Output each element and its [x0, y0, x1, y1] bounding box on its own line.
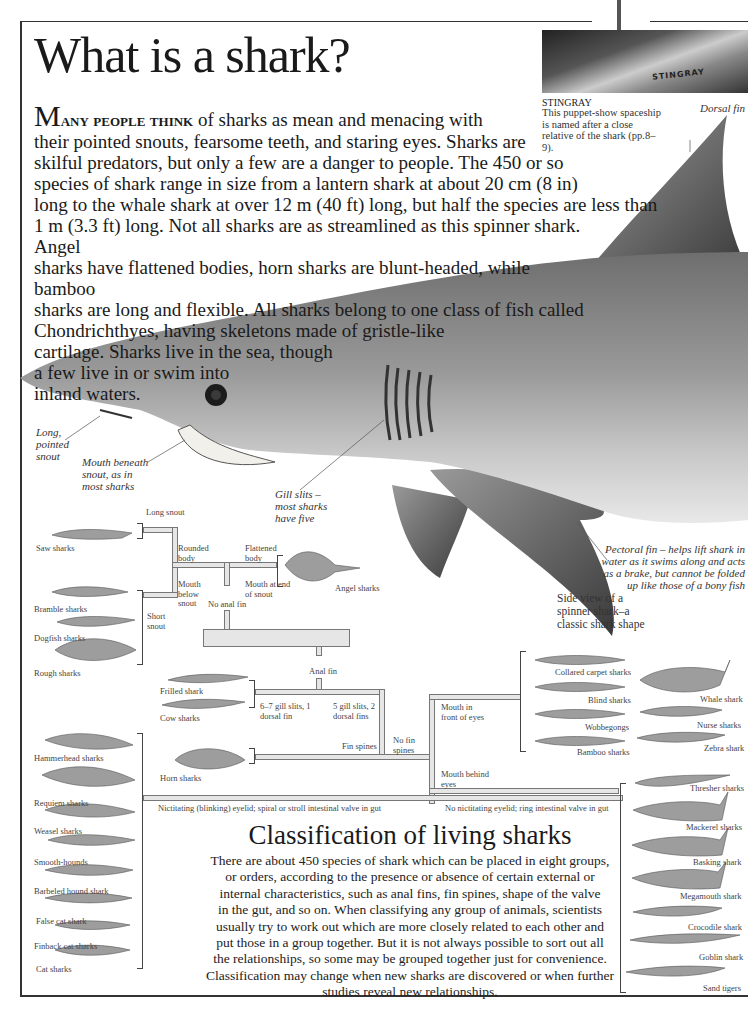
classification-line: put those in a group together. But it is… — [175, 935, 645, 951]
species-angel-sharks: Angel sharks — [335, 583, 380, 593]
classification-line: in the gut, and so on. When classifying … — [175, 902, 645, 918]
species-hammerhead-sharks: Hammerhead sharks — [34, 753, 104, 763]
classification-line: internal characteristics, such as anal f… — [175, 886, 645, 902]
classification-line: studies reveal new relationships. — [175, 984, 645, 1000]
species-horn-sharks: Horn sharks — [160, 773, 201, 783]
species-wobbegongs: Wobbegongs — [585, 722, 629, 732]
species-basking-shark: Basking shark — [693, 857, 741, 867]
species-whale-shark: Whale shark — [700, 694, 743, 704]
species-saw-sharks: Saw sharks — [36, 543, 74, 553]
classification-line: There are about 450 species of shark whi… — [175, 853, 645, 869]
species-zebra-shark: Zebra shark — [704, 743, 744, 753]
species-sand-tigers: Sand tigers — [703, 983, 741, 993]
species-finback-cat-sharks: Finback cat sharks — [34, 941, 97, 951]
species-thresher-sharks: Thresher sharks — [690, 783, 744, 793]
classification-text: There are about 450 species of shark whi… — [175, 853, 645, 1001]
species-nurse-sharks: Nurse sharks — [697, 720, 741, 730]
species-smooth-hounds: Smooth-hounds — [34, 857, 88, 867]
species-crocodile-shark: Crocodile shark — [688, 922, 742, 932]
species-frilled-shark: Frilled shark — [160, 686, 203, 696]
classification-title: Classification of living sharks — [200, 820, 620, 851]
species-barbeled-hound-shark: Barbeled hound shark — [34, 886, 109, 896]
species-bramble-sharks: Bramble sharks — [34, 604, 87, 614]
species-weasel-sharks: Weasel sharks — [34, 826, 82, 836]
classification-line: or orders, according to the presence or … — [175, 869, 645, 885]
species-cow-sharks: Cow sharks — [160, 713, 200, 723]
species-rough-sharks: Rough sharks — [34, 668, 81, 678]
species-megamouth-shark: Megamouth shark — [680, 891, 742, 901]
species-cat-sharks: Cat sharks — [36, 964, 72, 974]
species-mackerel-sharks: Mackerel sharks — [686, 822, 742, 832]
species-blind-sharks: Blind sharks — [588, 695, 631, 705]
species-false-cat-shark: False cat shark — [36, 916, 87, 926]
classification-line: usually try to work out which are more c… — [175, 919, 645, 935]
species-goblin-shark: Goblin shark — [699, 952, 743, 962]
species-collared-carpet-sharks: Collared carpet sharks — [555, 667, 631, 677]
classification-line: Classification may change when new shark… — [175, 968, 645, 984]
classification-line: the relationships, so some may be groupe… — [175, 951, 645, 967]
species-dogfish-sharks: Dogfish sharks — [34, 633, 85, 643]
species-requiem-sharks: Requiem sharks — [34, 798, 89, 808]
species-bamboo-sharks: Bamboo sharks — [577, 747, 630, 757]
